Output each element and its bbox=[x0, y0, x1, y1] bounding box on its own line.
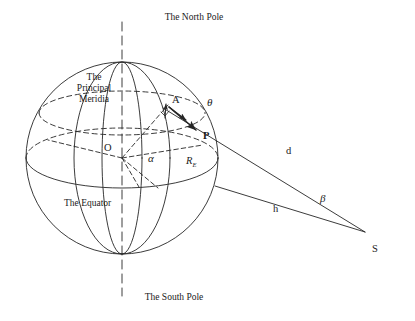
label-radius-earth: RE bbox=[186, 155, 196, 169]
label-center-o: O bbox=[104, 142, 112, 154]
label-principal-meridian: The Principal Meridia bbox=[63, 72, 125, 106]
label-principal-meridian-line2: Principal bbox=[63, 83, 125, 94]
diagram-svg bbox=[0, 0, 415, 321]
line-h-to-satellite bbox=[215, 186, 365, 232]
label-south-pole: The South Pole bbox=[126, 292, 222, 303]
label-angle-alpha: α bbox=[148, 152, 154, 165]
label-principal-meridian-line3: Meridia bbox=[63, 94, 125, 105]
label-equator: The Equator bbox=[64, 198, 111, 209]
label-point-p: P bbox=[203, 130, 209, 142]
radius-o-to-front bbox=[122, 158, 139, 187]
label-point-a: A bbox=[172, 94, 180, 106]
diagram-canvas: The North Pole The Principal Meridia O α… bbox=[0, 0, 415, 321]
label-angle-theta: θ bbox=[207, 96, 212, 109]
label-principal-meridian-line1: The bbox=[63, 72, 125, 83]
line-d-to-satellite bbox=[163, 108, 365, 232]
radius-o-to-a bbox=[122, 105, 168, 158]
label-radius-earth-subscript: E bbox=[192, 161, 196, 168]
label-point-s: S bbox=[372, 243, 378, 255]
label-angle-beta: β bbox=[320, 192, 325, 205]
label-altitude-h: h bbox=[273, 203, 278, 215]
label-distance-d: d bbox=[286, 145, 291, 157]
label-north-pole: The North Pole bbox=[148, 12, 240, 23]
